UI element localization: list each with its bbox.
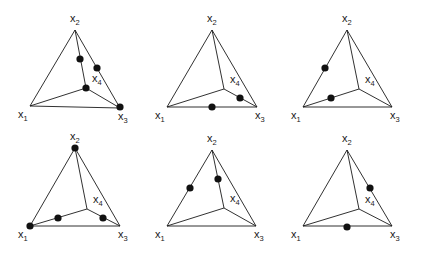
edge-x2-x3 [347, 30, 392, 107]
vertex-label-x2: x2 [342, 132, 352, 147]
vertex-label-x3: x3 [390, 228, 400, 243]
marked-point [366, 184, 373, 191]
marked-point [186, 184, 193, 191]
marked-point [321, 64, 328, 71]
marked-point [214, 175, 221, 182]
edge-x1-x2 [167, 30, 212, 107]
panel-4: x2x1x3x4 [18, 130, 128, 243]
marked-point [327, 94, 334, 101]
panel-1: x2x1x3x4 [18, 12, 128, 125]
edge-x1-x3 [30, 106, 120, 108]
marked-point [93, 64, 100, 71]
vertex-label-x4: x4 [230, 192, 240, 207]
edge-x1-x4 [30, 88, 86, 106]
edge-x2-x4 [75, 148, 87, 209]
marked-point [116, 103, 123, 110]
edge-x2-x4 [347, 30, 359, 89]
vertex-label-x3: x3 [390, 109, 400, 124]
marked-point [208, 103, 215, 110]
edge-x3-x4 [86, 88, 120, 108]
marked-point [71, 144, 78, 151]
vertex-label-x1: x1 [155, 228, 165, 243]
vertex-label-x1: x1 [155, 109, 165, 124]
vertex-label-x4: x4 [365, 193, 375, 208]
marked-point [82, 84, 89, 91]
marked-point [54, 214, 61, 221]
edge-x2-x3 [212, 30, 257, 107]
vertex-label-x3: x3 [118, 228, 128, 243]
vertex-label-x1: x1 [18, 108, 28, 123]
vertex-label-x1: x1 [291, 228, 301, 243]
vertex-label-x3: x3 [254, 228, 264, 243]
panel-3: x2x1x3x4 [291, 12, 400, 124]
vertex-label-x1: x1 [18, 228, 28, 243]
vertex-label-x2: x2 [70, 12, 80, 27]
marked-point [26, 222, 33, 229]
panel-5: x2x1x3x4 [155, 132, 264, 243]
marked-point [99, 214, 106, 221]
edge-x1-x2 [30, 30, 75, 106]
vertex-label-x4: x4 [93, 193, 103, 208]
vertex-label-x2: x2 [70, 130, 80, 145]
vertex-label-x2: x2 [207, 132, 217, 147]
marked-point [343, 223, 350, 230]
edge-x2-x4 [212, 30, 224, 89]
vertex-label-x1: x1 [291, 109, 301, 124]
panel-2: x2x1x3x4 [155, 12, 265, 124]
edge-x2-x3 [212, 150, 256, 226]
vertex-label-x2: x2 [342, 12, 352, 27]
edge-x2-x4 [347, 150, 359, 209]
vertex-label-x3: x3 [118, 110, 128, 125]
tetrahedron-diagram-grid: x2x1x3x4x2x1x3x4x2x1x3x4x2x1x3x4x2x1x3x4… [0, 0, 423, 256]
marked-point [236, 94, 243, 101]
marked-point [76, 55, 83, 62]
vertex-label-x3: x3 [255, 109, 265, 124]
panel-6: x2x1x3x4 [291, 132, 400, 243]
vertex-label-x2: x2 [207, 12, 217, 27]
